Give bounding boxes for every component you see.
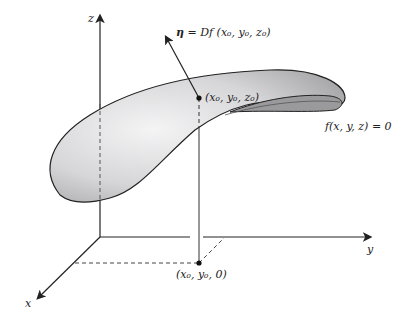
projection-point-label: (x₀, y₀, 0) — [176, 268, 227, 281]
surface-point-dot — [196, 95, 201, 100]
y-axis-label: y — [367, 243, 373, 256]
x-axis-label: x — [25, 297, 31, 310]
z-axis-label: z — [88, 12, 94, 25]
eta-symbol: η — [176, 26, 184, 39]
surface-point-label: (x₀, y₀, z₀) — [205, 91, 259, 104]
surface-equation-label: f(x, y, z) = 0 — [325, 120, 392, 133]
projection-point-dot — [196, 260, 201, 265]
normal-vector-expression: = Df (x₀, y₀, z₀) — [184, 26, 271, 39]
x-axis — [38, 237, 100, 298]
normal-vector-label: η = Df (x₀, y₀, z₀) — [176, 26, 271, 39]
projection-dash-y — [199, 238, 224, 263]
diagram-canvas: z y x η = Df (x₀, y₀, z₀) (x₀, y₀, z₀) (… — [0, 0, 403, 323]
surface-body — [50, 70, 345, 202]
